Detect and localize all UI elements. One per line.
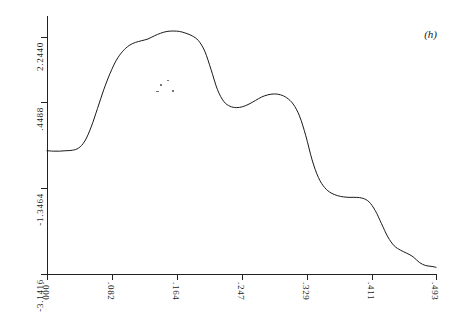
artifact-speck-1 [160,84,162,86]
artifact-speck-2 [167,80,169,81]
data-curve [0,0,455,333]
chart-panel: -3.1416 -1.3464 .4488 2.2440 .000 .082 .… [0,0,455,333]
panel-label: (h) [424,28,437,40]
artifact-speck-3 [156,91,159,92]
artifact-speck-4 [172,90,174,92]
